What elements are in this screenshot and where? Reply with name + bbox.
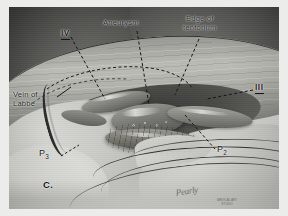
panel-label: C.: [43, 181, 53, 190]
label-edge-of-tentorium: Edge of tentorium: [183, 15, 216, 32]
label-segment-p3-subscript: 3: [45, 153, 49, 160]
label-segment-p2: P2: [217, 145, 227, 157]
label-aneurysm: Aneurysm: [103, 19, 139, 28]
label-nerve-iii: III: [255, 83, 264, 94]
illustration-plate: IV Aneurysm Edge of tentorium III Vein o…: [9, 7, 279, 209]
illustration-figure: IV Aneurysm Edge of tentorium III Vein o…: [0, 0, 288, 216]
studio-credit-stamp: MEDICAL ART STUDIO: [217, 199, 237, 207]
label-segment-p2-subscript: 2: [223, 149, 227, 156]
label-vein-of-labbe: Vein of Labbé: [13, 91, 38, 108]
label-nerve-iv: IV: [61, 29, 70, 40]
label-segment-p3: P3: [39, 149, 49, 161]
